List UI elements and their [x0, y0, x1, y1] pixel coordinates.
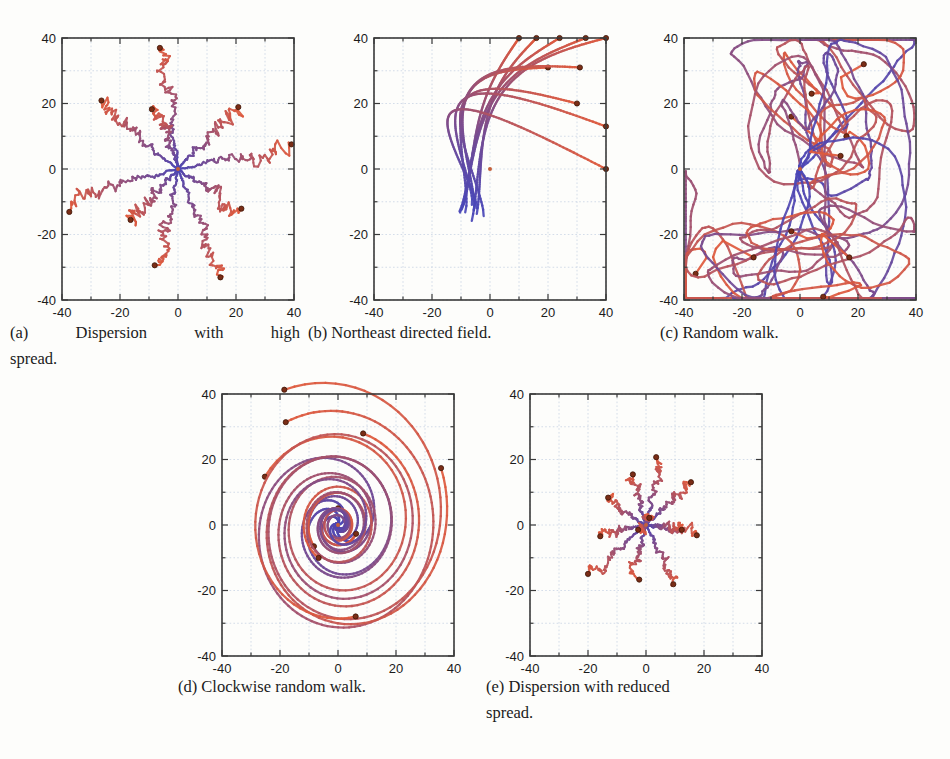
y-tick-label: -20: [659, 227, 678, 242]
plot-panel-b: -40-2002040-40-2002040: [330, 22, 620, 326]
trajectory-endpoint-marker: [361, 431, 366, 436]
trajectory-endpoint-marker: [438, 466, 443, 471]
y-tick-label: 40: [510, 387, 524, 402]
origin-marker: [644, 523, 648, 527]
y-tick-label: 20: [354, 96, 368, 111]
figure-panel-grid: -40-2002040-40-2002040 -40-2002040-40-20…: [0, 0, 950, 759]
chart-c: -40-2002040-40-2002040: [640, 22, 930, 326]
trajectory-endpoint-marker: [647, 515, 652, 520]
x-tick-label: -20: [271, 661, 290, 676]
trajectory-endpoint-marker: [654, 455, 659, 460]
trajectory-endpoint-marker: [679, 527, 684, 532]
trajectories: [67, 45, 294, 280]
y-tick-label: 0: [209, 518, 216, 533]
trajectory-endpoint-marker: [606, 495, 611, 500]
y-tick-label: -40: [197, 649, 216, 664]
y-tick-label: -20: [349, 227, 368, 242]
trajectory-endpoint-marker: [149, 107, 154, 112]
plot-panel-e: -40-2002040-40-2002040: [486, 378, 776, 682]
trajectory-endpoint-marker: [838, 153, 843, 158]
origin-marker: [488, 167, 492, 171]
trajectory-endpoint-marker: [821, 294, 826, 299]
trajectory-endpoint-marker: [316, 555, 321, 560]
trajectory-endpoint-marker: [636, 527, 641, 532]
y-tick-label: -40: [349, 293, 368, 308]
trajectory-endpoint-marker: [218, 275, 223, 280]
trajectory-endpoint-marker: [99, 98, 104, 103]
trajectory-endpoint-marker: [809, 91, 814, 96]
x-tick-label: -20: [111, 305, 130, 320]
trajectory-endpoint-marker: [671, 582, 676, 587]
y-tick-label: -20: [37, 227, 56, 242]
caption-a-line1: (a) Dispersion with high: [10, 322, 300, 344]
trajectory-endpoint-marker: [67, 209, 72, 214]
plot-panel-c: -40-2002040-40-2002040: [640, 22, 930, 326]
trajectory-endpoint-marker: [694, 533, 699, 538]
trajectory-endpoint-marker: [152, 263, 157, 268]
y-tick-label: 0: [671, 162, 678, 177]
y-tick-label: -40: [37, 293, 56, 308]
trajectory-endpoint-marker: [354, 531, 359, 536]
trajectory-endpoint-marker: [239, 206, 244, 211]
caption-a-line2: spread.: [10, 348, 300, 370]
chart-a: -40-2002040-40-2002040: [18, 22, 308, 326]
trajectory-endpoint-marker: [630, 472, 635, 477]
trajectory-endpoint-marker: [637, 577, 642, 582]
x-tick-label: 40: [909, 305, 923, 320]
x-tick-label: 20: [389, 661, 403, 676]
x-tick-label: 40: [447, 661, 461, 676]
trajectory-endpoint-marker: [585, 571, 590, 576]
x-tick-label: 40: [599, 305, 613, 320]
x-tick-label: 0: [486, 305, 493, 320]
plot-panel-a: -40-2002040-40-2002040: [18, 22, 308, 326]
scan-artifact: [20, 455, 23, 471]
caption-d: (d) Clockwise random walk.: [178, 676, 478, 698]
trajectory-endpoint-marker: [847, 255, 852, 260]
trajectory-endpoint-marker: [751, 255, 756, 260]
trajectory-endpoint-marker: [688, 480, 693, 485]
trajectory-endpoint-marker: [861, 62, 866, 67]
y-tick-label: 0: [517, 518, 524, 533]
x-tick-label: 0: [642, 661, 649, 676]
caption-c: (c) Random walk.: [660, 322, 930, 344]
y-tick-label: 20: [42, 96, 56, 111]
y-tick-label: 40: [42, 31, 56, 46]
x-tick-label: 20: [229, 305, 243, 320]
x-tick-label: 0: [174, 305, 181, 320]
x-tick-label: 20: [851, 305, 865, 320]
chart-b: -40-2002040-40-2002040: [330, 22, 620, 326]
x-tick-label: 0: [334, 661, 341, 676]
trajectory-endpoint-marker: [157, 45, 162, 50]
y-tick-label: 0: [49, 162, 56, 177]
trajectory-endpoint-marker: [577, 65, 582, 70]
y-tick-label: -40: [505, 649, 524, 664]
x-tick-label: 20: [541, 305, 555, 320]
x-tick-label: -20: [579, 661, 598, 676]
trajectories: [447, 35, 608, 220]
plot-panel-d: -40-2002040-40-2002040: [178, 378, 468, 682]
origin-marker: [336, 523, 340, 527]
chart-e: -40-2002040-40-2002040: [486, 378, 776, 682]
y-tick-label: 40: [202, 387, 216, 402]
trajectory-endpoint-marker: [353, 614, 358, 619]
x-tick-label: 40: [755, 661, 769, 676]
y-tick-label: 20: [664, 96, 678, 111]
caption-e-line1: (e) Dispersion with reduced: [486, 676, 786, 698]
y-tick-label: -40: [659, 293, 678, 308]
trajectory-endpoint-marker: [128, 217, 133, 222]
trajectory-endpoint-marker: [574, 101, 579, 106]
x-tick-label: 40: [287, 305, 301, 320]
trajectory-endpoint-marker: [789, 229, 794, 234]
caption-b: (b) Northeast directed field.: [308, 322, 608, 344]
y-tick-label: -20: [505, 583, 524, 598]
y-tick-label: 0: [361, 162, 368, 177]
y-tick-label: -20: [197, 583, 216, 598]
chart-d: -40-2002040-40-2002040: [178, 378, 468, 682]
origin-marker: [798, 167, 802, 171]
x-tick-label: 20: [697, 661, 711, 676]
y-tick-label: 20: [510, 452, 524, 467]
x-tick-label: 0: [796, 305, 803, 320]
trajectories: [255, 383, 447, 628]
trajectory-endpoint-marker: [283, 420, 288, 425]
x-tick-label: -20: [423, 305, 442, 320]
